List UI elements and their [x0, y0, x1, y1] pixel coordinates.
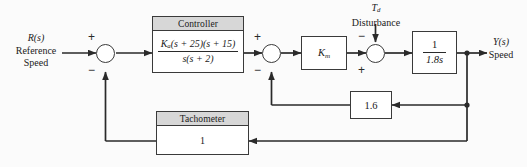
- tachometer-gain-value: 1: [157, 126, 248, 154]
- inner-junction-minus-sign: −: [254, 66, 261, 75]
- controller-transfer-function: Ka(s + 25)(s + 15) s(s + 2): [153, 31, 243, 72]
- disturbance-symbol-subscript: d: [377, 6, 380, 13]
- disturbance-junction: [366, 44, 385, 63]
- disturbance-junction-minus-sign: −: [358, 32, 365, 41]
- disturbance-junction-plus-sign: +: [358, 66, 365, 75]
- inner-feedback-gain-value: 1.6: [364, 100, 377, 111]
- controller-numerator-rest: (s + 25)(s + 15): [171, 38, 236, 49]
- branch-point-output: [464, 50, 469, 55]
- output-label: Y(s) Speed: [478, 36, 524, 61]
- plant-block: 1 1.8s: [412, 31, 457, 74]
- reference-input-label: R(s) Reference Speed: [8, 32, 64, 70]
- controller-denominator: s(s + 2): [182, 53, 213, 64]
- reference-line1: Reference: [16, 45, 57, 56]
- controller-header: Controller: [153, 17, 243, 31]
- controller-block: Controller Ka(s + 25)(s + 15) s(s + 2): [152, 16, 244, 73]
- controller-numerator: Ka(s + 25)(s + 15): [158, 38, 239, 52]
- error-junction: [96, 44, 115, 63]
- plant-numerator: 1: [423, 39, 446, 53]
- disturbance-label: Td Disturbance: [334, 2, 418, 29]
- reference-line2: Speed: [24, 57, 48, 68]
- error-junction-plus-sign: +: [88, 33, 95, 42]
- tachometer-header: Tachometer: [157, 112, 248, 126]
- branch-point-inner: [464, 102, 469, 107]
- tachometer-block: Tachometer 1: [156, 111, 249, 155]
- motor-gain-subscript: m: [325, 51, 330, 59]
- inner-loop-junction: [262, 44, 281, 63]
- motor-gain-block: Km: [301, 36, 347, 70]
- plant-denominator: 1.8s: [426, 54, 443, 65]
- disturbance-text: Disturbance: [352, 17, 400, 28]
- output-line1: Speed: [489, 49, 513, 60]
- output-symbol: Y(s): [493, 36, 509, 47]
- block-diagram: R(s) Reference Speed + − Controller Ka(s…: [0, 0, 527, 167]
- signal-wires: [0, 0, 527, 167]
- reference-symbol: R(s): [28, 32, 45, 43]
- error-junction-minus-sign: −: [88, 66, 95, 75]
- motor-gain-symbol: K: [318, 47, 325, 58]
- inner-junction-plus-sign: +: [254, 33, 261, 42]
- inner-feedback-gain-block: 1.6: [350, 91, 392, 119]
